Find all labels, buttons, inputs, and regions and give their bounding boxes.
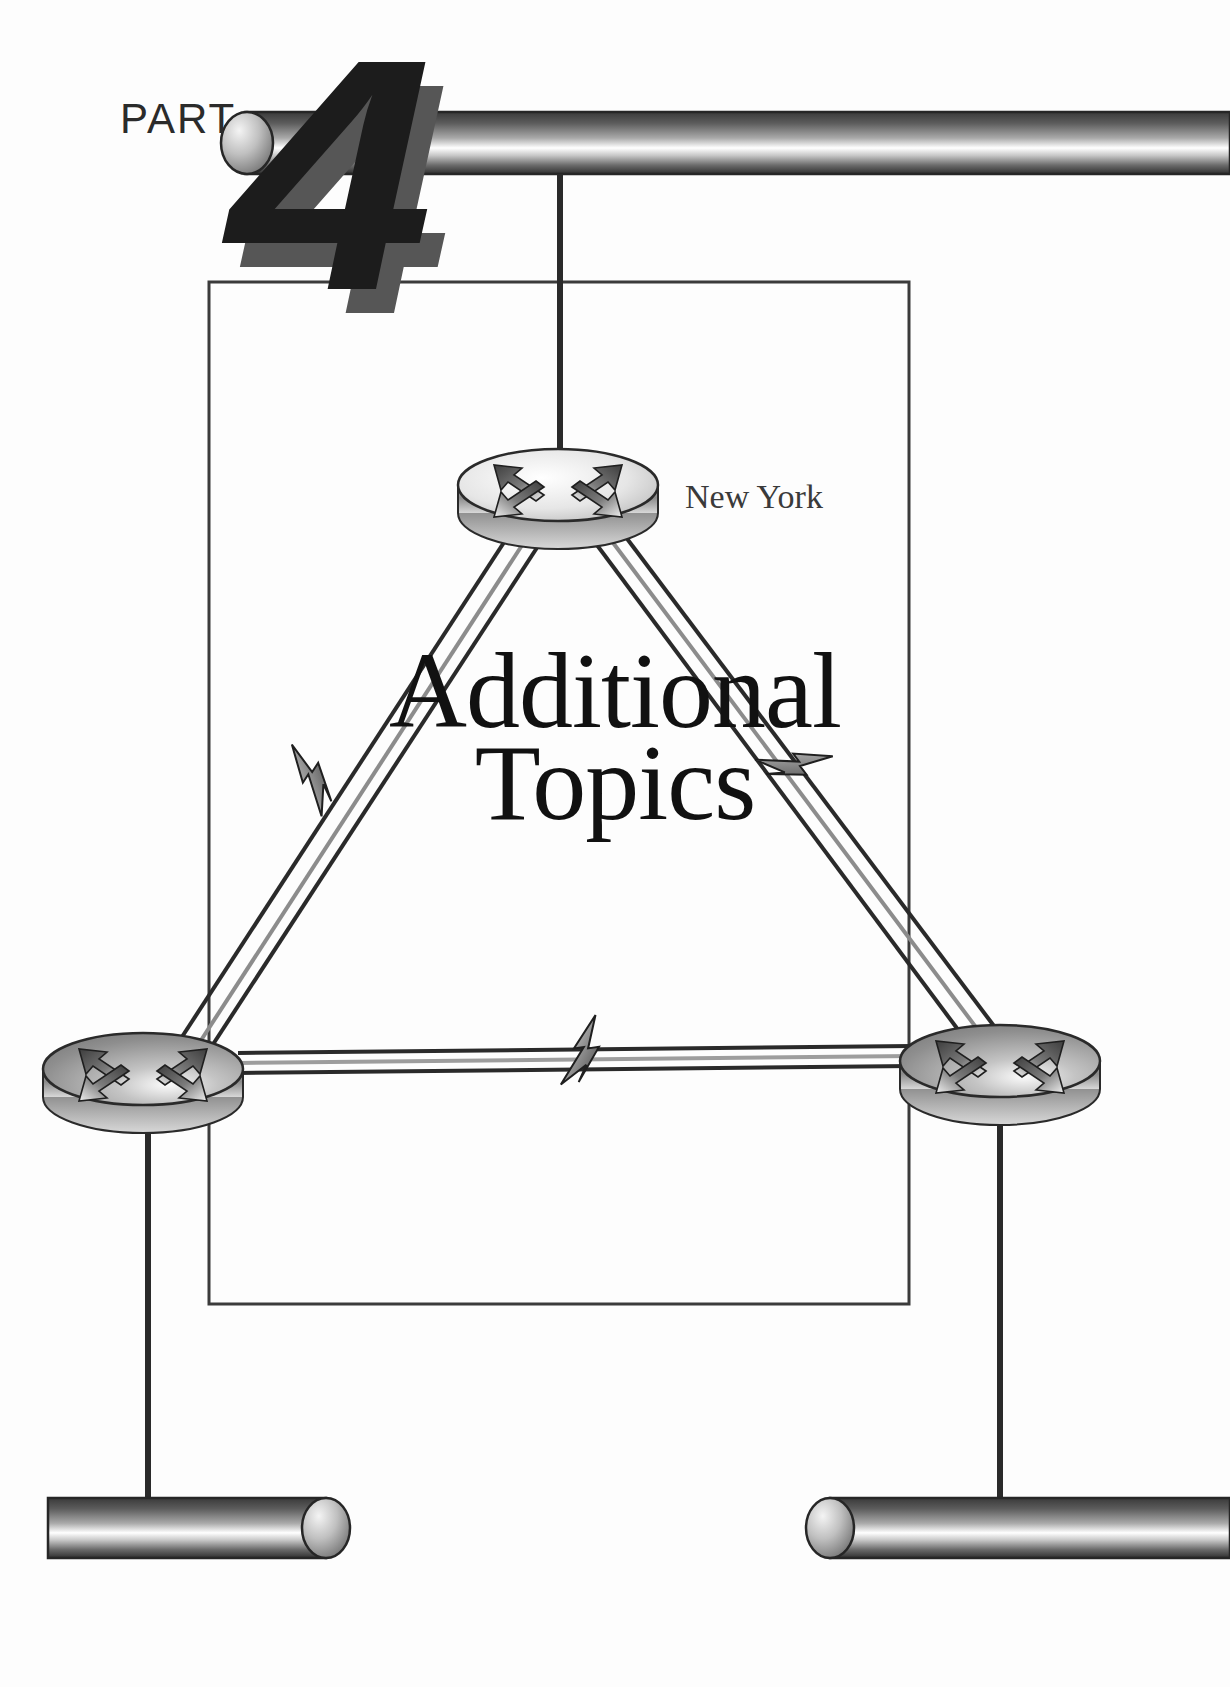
part-word: PART: [120, 95, 236, 143]
ethernet-bar-bottom-right: [806, 1498, 1230, 1558]
router-new-york[interactable]: [458, 449, 658, 549]
part-divider-page: 4 4 PART Additional Topics New York: [0, 0, 1230, 1687]
ethernet-bar-bottom-left: [48, 1498, 350, 1558]
router-bottom-left[interactable]: [43, 1033, 243, 1133]
link-bottom-left-to-bottom-right: [238, 1015, 912, 1085]
network-diagram: [0, 0, 1230, 1687]
link-ny-to-bottom-right: [588, 524, 994, 1035]
router-label-new-york: New York: [685, 478, 823, 516]
link-ny-to-bottom-left: [178, 530, 542, 1052]
part-number: 4: [228, 10, 434, 340]
router-bottom-right[interactable]: [900, 1025, 1100, 1125]
